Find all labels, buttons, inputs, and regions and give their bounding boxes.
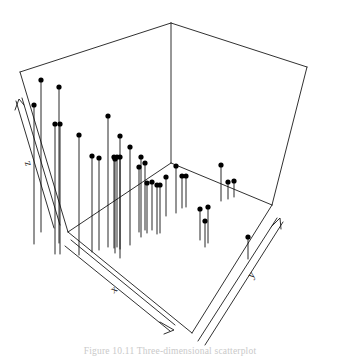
data-point	[144, 180, 149, 185]
data-point	[202, 218, 207, 223]
box-wireframe	[20, 23, 307, 333]
plot-canvas: z x y	[0, 0, 340, 356]
data-point	[76, 132, 81, 137]
data-point	[218, 162, 223, 167]
data-point	[56, 84, 61, 89]
z-axis-label: z	[20, 160, 33, 168]
data-point	[205, 204, 210, 209]
data-point	[157, 182, 162, 187]
data-point	[89, 153, 94, 158]
data-point	[245, 234, 250, 239]
box-edge-floor-front-left	[68, 232, 192, 333]
data-point	[96, 155, 101, 160]
y-axis-guide-line-b	[205, 222, 283, 345]
data-point	[105, 113, 110, 118]
data-point	[38, 77, 43, 82]
data-point	[138, 154, 143, 159]
x-axis-guide-line-a	[71, 240, 175, 325]
figure-caption: Figure 10.11 Three-dimensional scatterpl…	[0, 346, 340, 356]
data-point	[31, 102, 36, 107]
box-edge-back-top-left	[20, 23, 171, 72]
box-edge-right-vertical	[272, 67, 307, 205]
x-axis-guide-line-b	[65, 246, 170, 331]
needle-stems-group	[34, 80, 248, 259]
data-point	[136, 164, 141, 169]
data-point	[112, 156, 117, 161]
data-point	[142, 160, 147, 165]
box-edge-floor-front-right	[192, 205, 272, 333]
figure-3d-scatterplot: z x y Figure 10.11 Three-dimensional sca…	[0, 0, 340, 356]
y-axis-label: y	[244, 268, 257, 280]
data-point	[231, 178, 236, 183]
data-point	[225, 179, 230, 184]
data-point	[197, 206, 202, 211]
box-edge-floor-back-left	[68, 163, 171, 232]
data-point	[57, 121, 62, 126]
data-point	[173, 163, 178, 168]
data-point	[117, 133, 122, 138]
box-edge-back-top-right	[171, 23, 307, 67]
data-point	[149, 179, 154, 184]
data-point	[183, 173, 188, 178]
data-point	[52, 121, 57, 126]
box-edge-left-vertical	[20, 72, 68, 232]
y-axis-guide-line-a	[198, 218, 277, 341]
data-point	[163, 174, 168, 179]
data-point	[127, 144, 132, 149]
data-point	[117, 154, 122, 159]
